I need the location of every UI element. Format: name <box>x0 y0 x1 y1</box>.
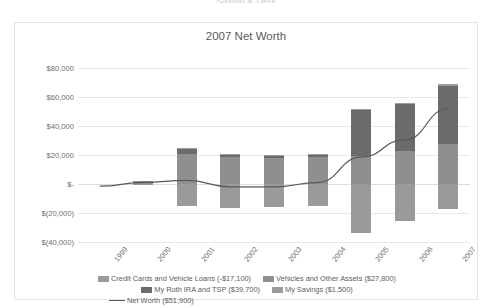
bar-segment[interactable] <box>438 184 458 209</box>
x-axis-tick-label: 2004 <box>330 245 347 264</box>
legend-label: Credit Cards and Vehicle Loans (-$17,100… <box>111 274 251 283</box>
legend-item[interactable]: My Roth IRA and TSP ($39,700) <box>141 285 260 294</box>
y-axis-tick-label: $60,000 <box>47 93 74 102</box>
bar-segment[interactable] <box>351 110 371 156</box>
page-caption: Saving & Debt <box>0 0 492 3</box>
chart-container: 2007 Net Worth $80,000$60,000$40,000$20,… <box>14 22 478 300</box>
bar-segment[interactable] <box>220 154 240 155</box>
bar-segment[interactable] <box>308 154 328 155</box>
x-axis-tick-label: 2007 <box>461 245 478 264</box>
x-axis-tick-label: 2001 <box>199 245 216 264</box>
bar-group[interactable] <box>220 68 240 242</box>
plot-area <box>78 68 470 242</box>
legend-row: Net Worth ($51,900) <box>15 295 479 306</box>
bar-segment[interactable] <box>264 158 284 184</box>
bar-group[interactable] <box>133 68 153 242</box>
bar-segment[interactable] <box>177 184 197 206</box>
bar-group[interactable] <box>177 68 197 242</box>
x-axis-tick-label: 1999 <box>112 245 129 264</box>
y-axis-tick-label: $(40,000) <box>41 238 74 247</box>
bar-segment[interactable] <box>220 157 240 184</box>
y-axis-tick-label: $(20,000) <box>41 209 74 218</box>
y-axis: $80,000$60,000$40,000$20,000$-$(20,000)$… <box>15 68 74 242</box>
x-axis-tick-label: 2002 <box>243 245 260 264</box>
bar-segment[interactable] <box>308 184 328 206</box>
bar-segment[interactable] <box>177 148 197 149</box>
y-axis-tick-label: $- <box>67 180 74 189</box>
bar-group[interactable] <box>264 68 284 242</box>
x-axis-tick-label: 2006 <box>417 245 434 264</box>
legend-item[interactable]: Net Worth ($51,900) <box>109 296 194 305</box>
bar-group[interactable] <box>90 68 110 242</box>
bar-segment[interactable] <box>395 184 415 221</box>
bar-segment[interactable] <box>351 156 371 184</box>
legend-item[interactable]: My Savings ($1,500) <box>272 285 353 294</box>
bar-group[interactable] <box>395 68 415 242</box>
bar-segment[interactable] <box>264 156 284 158</box>
y-axis-tick-label: $40,000 <box>47 122 74 131</box>
chart-legend: Credit Cards and Vehicle Loans (-$17,100… <box>15 273 479 306</box>
bar-segment[interactable] <box>133 184 153 185</box>
bar-segment[interactable] <box>220 155 240 157</box>
legend-row: My Roth IRA and TSP ($39,700)My Savings … <box>15 284 479 295</box>
bar-group[interactable] <box>438 68 458 242</box>
x-axis-tick-label: 2003 <box>286 245 303 264</box>
legend-swatch-icon <box>141 287 152 293</box>
bar-segment[interactable] <box>438 86 458 144</box>
y-axis-tick-label: $80,000 <box>47 64 74 73</box>
bar-segment[interactable] <box>220 184 240 208</box>
legend-label: Net Worth ($51,900) <box>127 296 194 305</box>
bar-segment[interactable] <box>351 109 371 110</box>
legend-item[interactable]: Vehicles and Other Assets ($27,800) <box>263 274 396 283</box>
bar-segment[interactable] <box>438 144 458 184</box>
x-axis: 199920002001200220032004200520062007 <box>78 243 470 273</box>
bar-segment[interactable] <box>438 84 458 86</box>
chart-title: 2007 Net Worth <box>15 30 477 42</box>
bar-group[interactable] <box>308 68 328 242</box>
legend-label: My Roth IRA and TSP ($39,700) <box>154 285 260 294</box>
bar-segment[interactable] <box>395 103 415 104</box>
bar-segment[interactable] <box>351 184 371 233</box>
bar-segment[interactable] <box>308 154 328 157</box>
legend-row: Credit Cards and Vehicle Loans (-$17,100… <box>15 273 479 284</box>
x-axis-tick-label: 2000 <box>156 245 173 264</box>
legend-swatch-icon <box>272 287 283 293</box>
legend-item[interactable]: Credit Cards and Vehicle Loans (-$17,100… <box>98 274 251 283</box>
bar-segment[interactable] <box>264 184 284 207</box>
bar-segment[interactable] <box>177 154 197 184</box>
legend-swatch-icon <box>98 276 109 282</box>
legend-label: Vehicles and Other Assets ($27,800) <box>276 274 396 283</box>
bar-segment[interactable] <box>395 104 415 151</box>
y-axis-tick-label: $20,000 <box>47 151 74 160</box>
bar-group[interactable] <box>351 68 371 242</box>
legend-swatch-icon <box>263 276 274 282</box>
bar-segment[interactable] <box>395 151 415 184</box>
legend-label: My Savings ($1,500) <box>285 285 353 294</box>
bar-segment[interactable] <box>177 148 197 154</box>
x-axis-tick-label: 2005 <box>373 245 390 264</box>
legend-line-icon <box>109 300 125 301</box>
bar-segment[interactable] <box>264 155 284 156</box>
bar-segment[interactable] <box>308 157 328 184</box>
